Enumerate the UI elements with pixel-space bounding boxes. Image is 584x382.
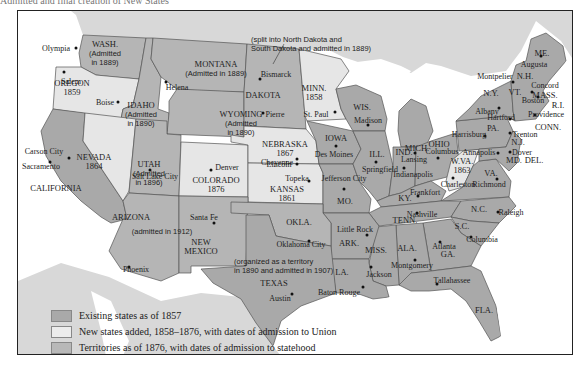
region-label: COLORADO1876 — [192, 176, 239, 194]
region-label: N.C. — [471, 205, 487, 214]
region-subtitle: 1858 — [302, 93, 327, 102]
capital-label: Harrisburg — [452, 130, 487, 139]
region-name: WIS. — [353, 103, 371, 112]
region-name: UTAH — [133, 160, 165, 169]
region-label: MISS. — [365, 246, 387, 255]
region-label: KANSAS1861 — [270, 185, 304, 203]
capital-dot-icon — [296, 163, 299, 166]
legend: Existing states as of 1857 New states ad… — [51, 308, 336, 355]
capital-dot-icon — [213, 222, 216, 225]
capital-label: Austin — [269, 294, 290, 303]
capital-label: Trenton — [512, 130, 537, 139]
region-label: IOWA — [325, 134, 347, 143]
capital-label: Sacramento — [22, 162, 60, 171]
capital-dot-icon — [509, 132, 512, 135]
region-name: N.J. — [511, 138, 525, 147]
region-name: CONN. — [535, 123, 561, 132]
capital-label: Bismarck — [261, 70, 292, 79]
region-subtitle: MEXICO — [184, 247, 218, 256]
capital-dot-icon — [370, 266, 373, 269]
region-name: (admitted in 1912) — [132, 227, 192, 236]
region-subtitle: 1859 — [54, 88, 89, 97]
region-label: R.I. — [552, 101, 565, 110]
region-subtitle: 1861 — [270, 194, 304, 203]
capital-label: Salem — [61, 77, 81, 86]
oklahoma-note-line-1: (organized as a territory — [234, 257, 333, 266]
region-label: S.C. — [455, 222, 470, 231]
region-name: ALA. — [397, 244, 417, 253]
capital-label: Atlanta — [432, 242, 456, 251]
capital-dot-icon — [296, 158, 299, 161]
capital-label: Santa Fe — [190, 213, 218, 222]
capital-label: Providence — [528, 110, 564, 119]
legend-swatch-new — [51, 326, 72, 338]
region-label: PA. — [487, 124, 499, 133]
capital-label: Montgomery — [391, 261, 433, 270]
region-name: CALIFORNIA — [30, 184, 81, 193]
region-label: ILL. — [369, 150, 384, 159]
capital-dot-icon — [334, 111, 337, 114]
capital-dot-icon — [68, 157, 71, 160]
region-name: N.Y. — [483, 89, 498, 98]
region-label: CALIFORNIA — [30, 184, 81, 193]
region-name: VA. — [484, 169, 497, 178]
capital-label: Lincoln — [267, 160, 292, 169]
region-label: MD. — [506, 156, 522, 165]
capital-label: Denver — [215, 163, 239, 172]
region-name: DEL. — [525, 156, 544, 165]
region-label: (admitted in 1912) — [132, 227, 192, 236]
capital-label: Frankfort — [410, 188, 440, 197]
capital-label: Helena — [166, 83, 189, 92]
capital-label: Little Rock — [337, 225, 373, 234]
region-subtitle: 1863 — [451, 166, 474, 175]
region-label: NEWMEXICO — [184, 238, 218, 256]
capital-dot-icon — [362, 286, 365, 289]
legend-label: Existing states as of 1857 — [79, 310, 181, 321]
region-label: CONN. — [535, 123, 561, 132]
region-label: ARIZONA — [112, 213, 150, 222]
region-name: S.C. — [455, 222, 470, 231]
region-label: WYOMING(Admittedin 1890) — [220, 110, 263, 137]
legend-item-territories: Territories as of 1876, with dates of ad… — [51, 340, 336, 355]
region-name: ARK. — [339, 239, 359, 248]
capital-label: Topeka — [285, 174, 308, 183]
capital-label: Boise — [96, 98, 114, 107]
region-label: FLA. — [475, 306, 493, 315]
region-label: N.H. — [517, 72, 534, 81]
capital-dot-icon — [117, 101, 120, 104]
capital-label: Columbus — [426, 147, 459, 156]
capital-dot-icon — [531, 91, 534, 94]
map-frame: WASH.(Admittedin 1889)OREGON1859IDAHO(Ad… — [17, 10, 573, 355]
region-label: LA. — [335, 268, 348, 277]
capital-label: Oklahoma City — [276, 240, 325, 249]
dakota-note-line-2: South Dakota and admitted in 1889) — [251, 44, 371, 53]
region-name: N.C. — [471, 205, 487, 214]
capital-label: Pierre — [265, 110, 284, 119]
capital-dot-icon — [291, 293, 294, 296]
capital-dot-icon — [497, 152, 500, 155]
dakota-note-line-1: (split into North Dakota and — [251, 35, 371, 44]
legend-label: New states added, 1858–1876, with dates … — [79, 326, 336, 337]
capital-dot-icon — [540, 55, 543, 58]
region-name: R.I. — [552, 101, 565, 110]
region-label: NEBRASKA1867 — [262, 140, 308, 158]
region-subtitle: in 1890) — [125, 119, 157, 128]
capital-label: Montpelier — [477, 72, 513, 81]
oklahoma-note: (organized as a territory in 1890 and ad… — [234, 257, 333, 275]
oklahoma-note-line-2: in 1890 and admitted in 1907) — [234, 266, 333, 275]
capital-label: Boston — [522, 96, 545, 105]
region-name: MISS. — [365, 246, 387, 255]
capital-label: Concord — [531, 81, 559, 90]
region-label: MO. — [337, 197, 353, 206]
region-name: IDAHO — [125, 101, 157, 110]
region-label: MINN.1858 — [302, 84, 327, 102]
region-label: GA. — [441, 250, 455, 259]
region-label: DAKOTA — [245, 91, 280, 100]
region-name: LA. — [335, 268, 348, 277]
region-label: OKLA. — [286, 218, 312, 227]
capital-label: Carson City — [25, 147, 63, 156]
region-label: DEL. — [525, 156, 544, 165]
region-label: NEVADA1864 — [77, 153, 112, 171]
capital-label: Madison — [354, 116, 382, 125]
region-name: MO. — [337, 197, 353, 206]
